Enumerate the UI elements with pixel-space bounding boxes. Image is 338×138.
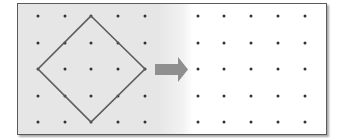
grid-dot: [197, 121, 200, 124]
grid-dot: [304, 15, 307, 18]
grid-dot: [90, 68, 93, 71]
grid-dot: [197, 95, 200, 98]
grid-dot: [197, 42, 200, 45]
grid-dot: [144, 95, 147, 98]
grid-dot: [197, 15, 200, 18]
grid-dot: [250, 15, 253, 18]
grid-dot: [250, 42, 253, 45]
grid-dot: [64, 15, 67, 18]
grid-dot: [64, 121, 67, 124]
grid-dot: [277, 15, 280, 18]
grid-dot: [117, 15, 120, 18]
grid-dot: [223, 95, 226, 98]
grid-dot: [37, 95, 40, 98]
right-arrow-icon: [155, 57, 188, 82]
grid-dot: [90, 95, 93, 98]
grid-dot: [277, 95, 280, 98]
grid-dot: [250, 121, 253, 124]
grid-dot: [250, 68, 253, 71]
grid-dot: [90, 42, 93, 45]
grid-dot: [304, 121, 307, 124]
grid-dot: [144, 42, 147, 45]
grid-dot: [304, 42, 307, 45]
grid-dot: [250, 95, 253, 98]
grid-dot: [117, 121, 120, 124]
dot-grid-diagram: [0, 0, 338, 138]
grid-dot: [277, 68, 280, 71]
left-dot-grid: [37, 15, 147, 124]
grid-dot: [277, 42, 280, 45]
grid-dot: [144, 15, 147, 18]
grid-dot: [277, 121, 280, 124]
grid-dot: [37, 42, 40, 45]
right-dot-grid: [197, 15, 307, 124]
grid-dot: [223, 15, 226, 18]
grid-dot: [223, 121, 226, 124]
grid-dot: [117, 68, 120, 71]
grid-dot: [223, 68, 226, 71]
grid-dot: [37, 121, 40, 124]
grid-dot: [37, 15, 40, 18]
grid-dot: [223, 42, 226, 45]
grid-dot: [144, 121, 147, 124]
grid-dot: [64, 68, 67, 71]
grid-dot: [197, 68, 200, 71]
grid-dot: [304, 68, 307, 71]
grid-dot: [304, 95, 307, 98]
